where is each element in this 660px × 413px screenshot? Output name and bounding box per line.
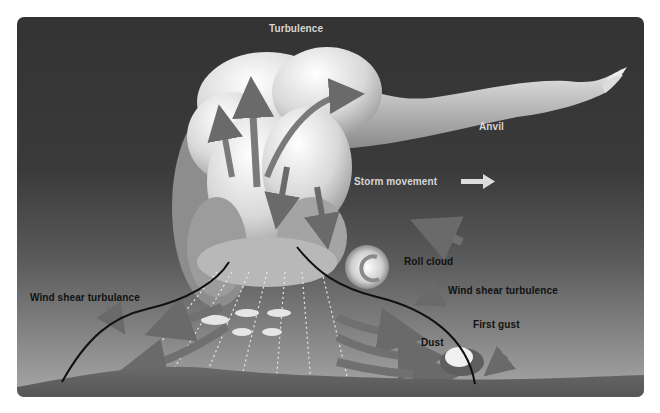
label-first-gust: First gust <box>473 319 520 330</box>
ground <box>17 367 644 397</box>
roll-cloud-icon <box>345 245 389 289</box>
label-turbulence: Turbulence <box>269 23 323 34</box>
diagram-artwork <box>17 17 644 397</box>
label-anvil: Anvil <box>479 121 504 132</box>
label-roll-cloud: Roll cloud <box>404 256 453 267</box>
storm-movement-arrow-icon <box>461 174 495 189</box>
label-storm-movement: Storm movement <box>354 176 437 187</box>
label-wind-shear-right: Wind shear turbulence <box>448 285 558 296</box>
label-wind-shear-left: Wind shear turbulance <box>30 292 140 303</box>
label-dust: Dust <box>421 337 444 348</box>
thunderstorm-diagram: Turbulence Anvil Storm movement Roll clo… <box>17 17 644 397</box>
